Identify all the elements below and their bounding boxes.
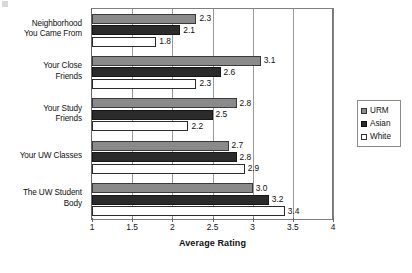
cat-label-line: The UW Student (23, 188, 82, 197)
bar-value-label: 2.8 (238, 98, 252, 108)
bar-value-label: 3.0 (254, 183, 268, 193)
bar-urm-4[interactable] (92, 183, 253, 193)
cat-label-line: Your Close (43, 61, 82, 70)
y-axis-label-0: NeighborhoodYou Came From (0, 19, 82, 40)
x-tick-label: 1.5 (126, 222, 138, 232)
cat-label-line: Neighborhood (32, 19, 82, 28)
cat-label-line: Your Study (43, 104, 82, 113)
cat-label-line: Body (64, 199, 82, 208)
bar-asian-0[interactable] (92, 25, 180, 35)
y-axis-label-2: Your StudyFriends (0, 104, 82, 125)
x-tick-label: 3 (250, 222, 255, 232)
bar-group: 2.32.11.8 (92, 9, 333, 51)
bar-value-label: 2.7 (230, 140, 244, 150)
bar-white-4[interactable] (92, 206, 285, 216)
bar-group: 3.12.62.3 (92, 51, 333, 93)
bar-value-label: 2.9 (246, 163, 260, 173)
bar-asian-3[interactable] (92, 152, 237, 162)
bar-value-label: 2.5 (214, 109, 228, 119)
legend-label: White (370, 132, 391, 141)
bar-urm-0[interactable] (92, 14, 196, 24)
x-tick-label: 2 (170, 222, 175, 232)
x-tick-label: 4 (331, 222, 336, 232)
bar-white-3[interactable] (92, 164, 245, 174)
legend-label: URM (370, 106, 389, 115)
cat-label-line: Your UW Classes (20, 151, 82, 160)
bar-value-label: 2.1 (181, 25, 195, 35)
bar-value-label: 3.1 (262, 55, 276, 65)
bar-white-2[interactable] (92, 121, 188, 131)
bar-white-0[interactable] (92, 37, 156, 47)
chart-legend: URMAsianWhite (357, 100, 401, 147)
bar-value-label: 2.6 (222, 67, 236, 77)
x-axis-title: Average Rating (91, 238, 334, 248)
bar-white-1[interactable] (92, 79, 196, 89)
legend-label: Asian (370, 119, 390, 128)
bar-urm-2[interactable] (92, 98, 237, 108)
bar-value-label: 2.2 (189, 121, 203, 131)
bar-asian-1[interactable] (92, 67, 221, 77)
y-axis-label-4: The UW StudentBody (0, 188, 82, 209)
bar-value-label: 3.4 (286, 206, 300, 216)
x-axis-ticks: 11.522.533.54 (91, 222, 334, 236)
bar-asian-4[interactable] (92, 195, 269, 205)
bar-group: 2.72.82.9 (92, 136, 333, 178)
legend-item-urm[interactable]: URM (361, 104, 398, 117)
cat-label-line: You Came From (24, 29, 82, 38)
x-tick-label: 2.5 (207, 222, 219, 232)
bar-group: 3.03.23.4 (92, 179, 333, 221)
legend-item-asian[interactable]: Asian (361, 117, 398, 130)
cat-label-line: Friends (55, 114, 82, 123)
bar-value-label: 2.3 (197, 13, 211, 23)
bar-urm-3[interactable] (92, 141, 229, 151)
bar-chart: NeighborhoodYou Came FromYour CloseFrien… (0, 0, 412, 273)
plot-area: 2.32.11.83.12.62.32.82.52.22.72.82.93.03… (91, 8, 334, 220)
legend-swatch-icon (361, 108, 367, 114)
legend-item-white[interactable]: White (361, 130, 398, 143)
bar-value-label: 3.2 (270, 194, 284, 204)
page-corner-mark (2, 1, 8, 7)
y-axis-label-1: Your CloseFriends (0, 61, 82, 82)
legend-swatch-icon (361, 121, 367, 127)
x-tick-label: 3.5 (287, 222, 299, 232)
bar-group: 2.82.52.2 (92, 94, 333, 136)
cat-label-line: Friends (55, 72, 82, 81)
bar-value-label: 1.8 (157, 36, 171, 46)
bar-asian-2[interactable] (92, 110, 213, 120)
legend-swatch-icon (361, 134, 367, 140)
x-tick-label: 1 (90, 222, 95, 232)
y-axis-category-labels: NeighborhoodYou Came FromYour CloseFrien… (0, 8, 86, 220)
y-axis-label-3: Your UW Classes (0, 151, 82, 162)
bar-urm-1[interactable] (92, 56, 261, 66)
bar-value-label: 2.8 (238, 152, 252, 162)
bar-value-label: 2.3 (197, 78, 211, 88)
